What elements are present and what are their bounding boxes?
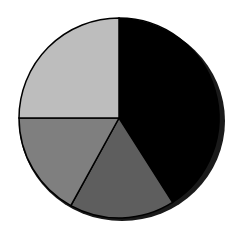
- pie-slices: [19, 18, 219, 218]
- pie-chart: [0, 0, 241, 235]
- pie-slice-4: [19, 18, 119, 118]
- pie-chart-canvas: [0, 0, 241, 235]
